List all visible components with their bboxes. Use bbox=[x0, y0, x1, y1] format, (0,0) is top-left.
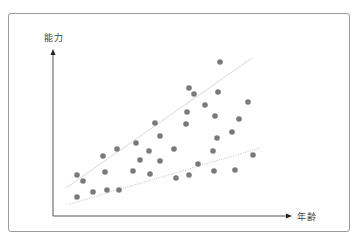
data-point bbox=[186, 172, 192, 178]
y-axis-arrow-icon bbox=[51, 49, 56, 55]
data-point bbox=[195, 161, 201, 167]
data-point bbox=[147, 171, 153, 177]
data-point bbox=[236, 116, 242, 122]
lower-trend-line bbox=[70, 148, 260, 204]
data-point bbox=[133, 140, 139, 146]
data-points bbox=[74, 59, 256, 200]
data-point bbox=[157, 133, 163, 139]
data-point bbox=[212, 113, 218, 119]
data-point bbox=[74, 194, 80, 200]
data-point bbox=[80, 178, 86, 184]
data-point bbox=[183, 121, 189, 127]
data-point bbox=[152, 120, 158, 126]
data-point bbox=[74, 172, 80, 178]
data-point bbox=[250, 152, 256, 158]
data-point bbox=[173, 175, 179, 181]
data-point bbox=[229, 129, 235, 135]
data-point bbox=[157, 158, 163, 164]
data-point bbox=[186, 85, 192, 91]
data-point bbox=[191, 91, 197, 97]
data-point bbox=[202, 102, 208, 108]
data-point bbox=[114, 146, 120, 152]
upper-trend-line bbox=[66, 58, 252, 188]
axes bbox=[51, 49, 293, 219]
data-point bbox=[215, 89, 221, 95]
data-point bbox=[146, 148, 152, 154]
data-point bbox=[104, 187, 110, 193]
data-point bbox=[245, 99, 251, 105]
data-point bbox=[217, 59, 223, 65]
data-point bbox=[90, 189, 96, 195]
data-point bbox=[214, 135, 220, 141]
data-point bbox=[102, 169, 108, 175]
data-point bbox=[171, 146, 177, 152]
x-axis-label: 年齢 bbox=[297, 210, 316, 223]
data-point bbox=[211, 168, 217, 174]
data-point bbox=[210, 148, 216, 154]
y-axis-label: 能力 bbox=[44, 31, 63, 44]
data-point bbox=[232, 167, 238, 173]
data-point bbox=[184, 109, 190, 115]
data-point bbox=[100, 153, 106, 159]
data-point bbox=[130, 168, 136, 174]
data-point bbox=[116, 187, 122, 193]
x-axis-arrow-icon bbox=[286, 214, 292, 219]
data-point bbox=[137, 157, 143, 163]
